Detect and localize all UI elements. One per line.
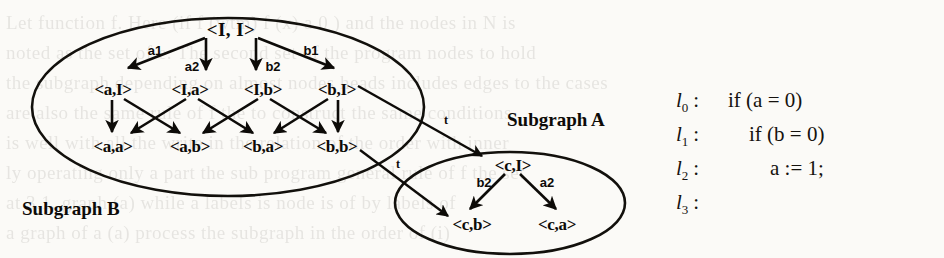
edge-bI-to-cI-t — [358, 86, 482, 156]
code-line-label: l2: — [676, 156, 728, 184]
code-line: l2: a := 1; — [676, 156, 926, 190]
edge-aI-to-ab — [124, 99, 180, 133]
node-root: <I, I> — [207, 19, 255, 41]
edge-label-cI-a2: a2 — [540, 175, 554, 190]
node-c-a: <c,a> — [538, 215, 576, 235]
edge-label-b2: b2 — [265, 59, 280, 74]
edge-Ia-to-aa — [131, 99, 186, 133]
code-line-text: if (a = 0) — [728, 88, 926, 113]
edge-Ib-to-ab — [203, 99, 258, 133]
node-b-a: <b,a> — [243, 137, 283, 157]
code-listing: l0: if (a = 0) l1: if (b = 0) l2: a := 1… — [676, 88, 926, 224]
node-c-I: <c,I> — [495, 156, 531, 176]
code-line-label: l3: — [676, 190, 728, 218]
edge-label-cI-b2: b2 — [476, 175, 491, 190]
node-I-b: <I,b> — [244, 80, 282, 100]
edge-label-t-lower: t — [396, 157, 400, 172]
code-line-text: if (b = 0) — [728, 122, 926, 147]
code-line: l0: if (a = 0) — [676, 88, 926, 122]
code-line: l3: — [676, 190, 926, 224]
node-a-b: <a,b> — [170, 137, 210, 157]
code-line-text: a := 1; — [728, 156, 926, 181]
edge-Ia-to-ba — [198, 99, 253, 133]
edge-bb-to-cb-t — [360, 150, 448, 216]
node-b-I: <b,I> — [318, 80, 356, 100]
node-c-b: <c,b> — [452, 215, 491, 235]
subgraph-b-ellipse — [32, 18, 424, 196]
edge-label-b1: b1 — [303, 43, 318, 58]
code-line: l1: if (b = 0) — [676, 122, 926, 156]
edge-label-a1: a1 — [148, 43, 162, 58]
node-I-a: <I,a> — [171, 80, 208, 100]
code-line-label: l1: — [676, 122, 728, 150]
region-label-subgraph-b: Subgraph B — [22, 198, 120, 220]
edge-label-a2: a2 — [185, 59, 199, 74]
node-b-b: <b,b> — [316, 137, 357, 157]
region-label-subgraph-a: Subgraph A — [507, 109, 605, 131]
node-a-I: <a,I> — [94, 80, 131, 100]
edge-label-t-upper: t — [444, 113, 448, 128]
code-line-label: l0: — [676, 88, 728, 116]
node-a-a: <a,a> — [93, 137, 132, 157]
figure-page: Let function f. Here (if f (wtm) f (x) a… — [0, 0, 944, 258]
